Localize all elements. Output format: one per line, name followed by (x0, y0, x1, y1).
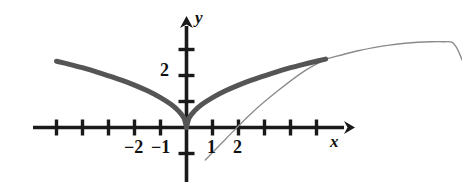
figure-container: x y −2−1122 (0, 0, 462, 193)
x-axis-tick-label: 1 (207, 138, 216, 156)
y-axis-tick-label: 2 (160, 61, 169, 79)
x-axis-tick-label: −1 (151, 138, 170, 156)
thin-curve-continuation-path (326, 42, 462, 60)
graph-canvas (0, 0, 462, 193)
x-axis-arrow-icon (344, 121, 355, 134)
data-curves-group (57, 42, 462, 160)
y-axis-label: y (195, 9, 203, 26)
x-axis-tick-label: 2 (233, 138, 242, 156)
x-axis-label: x (330, 133, 339, 150)
axes-group (33, 16, 355, 182)
x-axis-tick-label: −2 (124, 138, 143, 156)
thick-curve-right-branch-path (187, 59, 326, 127)
